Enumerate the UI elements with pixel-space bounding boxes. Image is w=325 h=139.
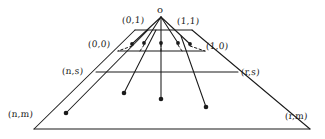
- label-r-s: (r,s): [241, 68, 260, 77]
- dash-far-right: [190, 46, 205, 51]
- label-r-m: (r,m): [285, 112, 308, 121]
- dot-deep-center: [159, 97, 164, 102]
- label-zero-one: (0,1): [122, 16, 145, 25]
- dot-ray-right: [176, 41, 180, 45]
- diagram-svg: [0, 0, 325, 139]
- dot-ray-far-left: [130, 42, 134, 46]
- label-zero-zero: (0,0): [88, 40, 111, 49]
- dash-right: [178, 45, 182, 51]
- dash-left: [140, 45, 144, 51]
- label-apex: o: [157, 5, 163, 15]
- figure-canvas: o(0,1)(1,1)(0,0)(1,0)(n,s)(r,s)(n,m)(r,m…: [0, 0, 325, 139]
- deep-ray-midleft: [124, 30, 156, 93]
- outer-left-side: [34, 30, 135, 129]
- label-n-s: (n,s): [62, 67, 84, 76]
- dot-deep-right: [204, 105, 209, 110]
- dot-ray-far-right: [188, 42, 192, 46]
- dot-ray-center: [159, 41, 163, 45]
- dot-ray-left: [142, 41, 146, 45]
- label-n-m: (n,m): [8, 110, 34, 119]
- dot-deep-left: [64, 111, 69, 116]
- dot-deep-midleft: [122, 91, 127, 96]
- label-one-one: (1,1): [177, 17, 200, 26]
- label-one-zero: (1,0): [206, 42, 229, 51]
